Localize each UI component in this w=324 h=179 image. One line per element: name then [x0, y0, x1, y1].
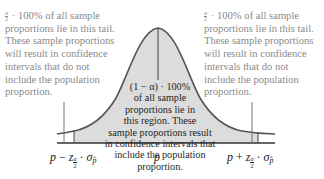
left-tail-text: · 100% of all sample proportions lie in …	[5, 10, 115, 97]
center-text-line: include the population proportion.	[100, 149, 220, 172]
lower-bound-label: p − zα2 · σp̂	[50, 150, 97, 169]
center-label: p	[154, 150, 160, 165]
right-tail-text: · 100% of all sample proportions lie in …	[204, 10, 314, 97]
alpha-over-two-fraction: α2	[250, 156, 253, 169]
center-text-line: this region. These	[100, 115, 220, 126]
right-tail-annotation: α 2 · 100% of all sample proportions lie…	[204, 10, 322, 99]
center-text-line: in confidence intervals that	[100, 138, 220, 149]
upper-bound-label: p + zα2 · σp̂	[227, 150, 274, 169]
center-text-line: proportions lie in	[100, 104, 220, 115]
center-text-line: sample proportions result	[100, 127, 220, 138]
alpha-over-two-fraction: α2	[73, 156, 76, 169]
center-text-line: (1 − α) · 100%	[100, 81, 220, 92]
center-region-annotation: (1 − α) · 100% of all sample proportions…	[100, 81, 220, 172]
center-text-line: of all sample	[100, 92, 220, 103]
alpha-over-two-fraction: α 2	[5, 11, 8, 22]
alpha-over-two-fraction: α 2	[204, 11, 207, 22]
